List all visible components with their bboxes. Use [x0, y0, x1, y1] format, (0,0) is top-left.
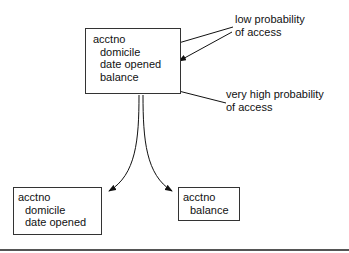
right-box: acctno balance	[178, 187, 240, 221]
field-domicile: domicile	[93, 46, 180, 59]
low-line-2: of access	[235, 26, 305, 39]
low-probability-label: low probability of access	[235, 13, 305, 38]
field-domicile: domicile	[18, 204, 101, 217]
top-box: acctno domicile date opened balance	[85, 28, 181, 94]
high-line-2: of access	[226, 101, 324, 114]
diagram-canvas: acctno domicile date opened balance low …	[0, 0, 349, 253]
low-line-1: low probability	[235, 13, 305, 26]
field-balance: balance	[93, 71, 180, 84]
high-probability-label: very high probability of access	[226, 88, 324, 113]
left-box: acctno domicile date opened	[13, 187, 102, 235]
field-acctno: acctno	[18, 191, 101, 204]
field-date-opened: date opened	[18, 216, 101, 229]
high-line-1: very high probability	[226, 88, 324, 101]
field-date-opened: date opened	[93, 58, 180, 71]
field-balance: balance	[183, 204, 239, 217]
field-acctno: acctno	[93, 33, 180, 46]
bottom-divider	[0, 249, 349, 251]
field-acctno: acctno	[183, 191, 239, 204]
